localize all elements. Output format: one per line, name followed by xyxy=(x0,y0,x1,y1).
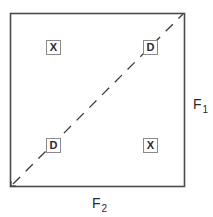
cell-bottom-left-label: D xyxy=(46,138,61,153)
axis-label-f1-base: F xyxy=(193,96,202,112)
axis-label-f1-subscript: 1 xyxy=(203,104,209,115)
cell-top-right-label: D xyxy=(143,40,158,55)
axis-label-f2-subscript: 2 xyxy=(102,203,108,214)
cell-bottom-right-label: X xyxy=(143,138,158,153)
axis-label-f1: F1 xyxy=(193,97,208,113)
diagram-canvas xyxy=(0,0,213,217)
axis-label-f2: F2 xyxy=(92,196,107,212)
cell-top-left-label: X xyxy=(46,40,61,55)
axis-label-f2-base: F xyxy=(92,195,101,211)
factor-diagram: X D D X F1 F2 xyxy=(0,0,213,217)
